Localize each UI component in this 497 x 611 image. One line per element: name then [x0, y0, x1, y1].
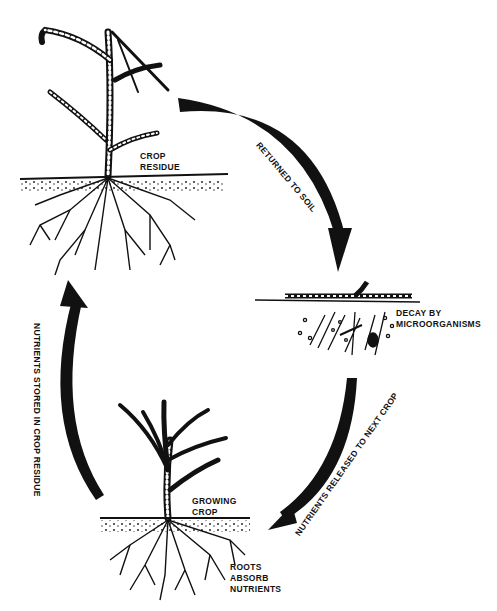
- label-line: DECAY BY: [396, 308, 481, 319]
- label-line: GROWING: [192, 496, 237, 507]
- label-line: NUTRIENTS: [230, 584, 281, 595]
- arrow-nutrients-stored: [60, 280, 104, 500]
- label-line: RESIDUE: [140, 162, 180, 173]
- label-line: CROP: [140, 151, 180, 162]
- label-growing-crop: GROWING CROP: [192, 496, 237, 518]
- decaying-residue: [255, 282, 420, 302]
- label-line: CROP: [192, 507, 237, 518]
- label-crop-residue: CROP RESIDUE: [140, 151, 180, 173]
- label-nutrients-stored: NUTRIENTS STORED IN CROP RESIDUE: [31, 323, 42, 497]
- label-line: ROOTS: [230, 562, 281, 573]
- label-roots: ROOTS ABSORB NUTRIENTS: [230, 562, 281, 595]
- microorganisms: [298, 312, 393, 355]
- label-decay: DECAY BY MICROORGANISMS: [396, 308, 481, 330]
- label-line: ABSORB: [230, 573, 281, 584]
- top-roots: [30, 178, 195, 275]
- label-line: MICROORGANISMS: [396, 319, 481, 330]
- nutrient-cycle-diagram: CROP RESIDUE DECAY BY MICROORGANISMS GRO…: [0, 0, 497, 611]
